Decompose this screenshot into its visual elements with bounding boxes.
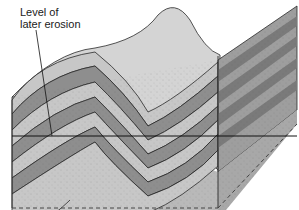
- erosion-label: Level of later erosion: [20, 6, 81, 30]
- erosion-label-line2: later erosion: [20, 18, 81, 30]
- block-diagram: [0, 0, 299, 210]
- erosion-label-line1: Level of: [20, 6, 81, 18]
